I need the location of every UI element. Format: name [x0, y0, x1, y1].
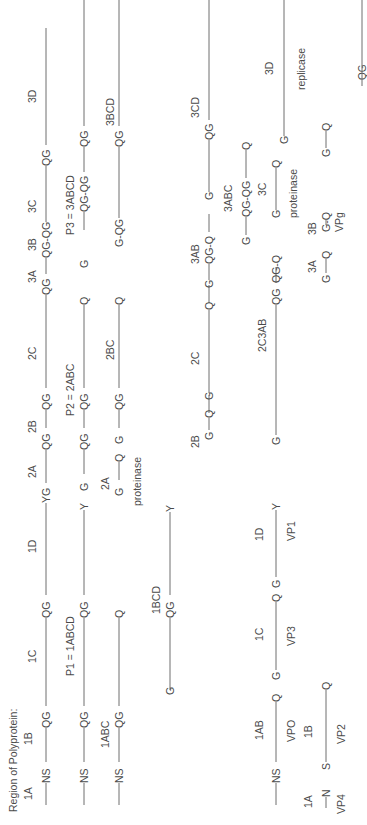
segment-label-2a: 2A: [26, 465, 38, 478]
label-vpg: VPg: [333, 212, 345, 232]
site-label: QG-QG: [240, 181, 252, 217]
segment-label-2b: 2B: [26, 420, 38, 433]
site-label: QG: [113, 712, 125, 728]
site-label: Q: [320, 123, 332, 131]
segment-label-1d: 1D: [26, 539, 38, 553]
site-label: G: [270, 672, 282, 680]
site-label: Q: [113, 610, 125, 618]
site-label: Q: [270, 160, 282, 168]
label-vp1: VP1: [285, 521, 297, 541]
site-label: QG: [40, 712, 52, 728]
site-label: G: [78, 483, 90, 491]
label-3cd: 3CD: [189, 97, 201, 118]
label-proteinase-3c: proteinase: [287, 169, 299, 218]
site-label: G: [270, 437, 282, 445]
site-label: NS: [78, 768, 90, 783]
site-label: G: [203, 392, 215, 400]
row-secondary: G Q G Q G QG-Q G QG 2B 2C 3AB 3CD: [189, 0, 215, 448]
label-proteinase-2a: proteinase: [131, 457, 143, 506]
label-1abc: 1ABC: [99, 720, 111, 748]
site-label: Q: [113, 297, 125, 305]
site-label: Q: [270, 594, 282, 602]
site-label: Q: [320, 682, 332, 690]
site-label: Q: [113, 454, 125, 462]
site-label: G: [270, 580, 282, 588]
site-label: NS: [270, 768, 282, 783]
site-label: G: [320, 275, 332, 283]
site-label: G: [203, 192, 215, 200]
site-label: Q: [78, 297, 90, 305]
site-label: QG: [203, 124, 215, 140]
site-label: QG-Q: [203, 236, 215, 264]
site-label: QG: [40, 150, 52, 166]
row-intermediates: NS QG Q G Q G QG Q G-QG QG 1ABC 2A prote…: [99, 0, 143, 805]
site-label: QG: [78, 602, 90, 618]
label-2bc: 2BC: [104, 339, 116, 360]
label-3abc: 3ABC: [222, 184, 234, 212]
site-label: QG: [270, 289, 282, 305]
segment-label-3b: 3B: [26, 238, 38, 251]
site-label: QG: [40, 602, 52, 618]
label-1d: 1D: [253, 527, 265, 541]
site-label: S: [320, 763, 332, 770]
row-primary-cleavage: NS QG QG Y G QG QG Q G QG-QG QG P1 = 1AB…: [64, 0, 90, 805]
site-label: G: [240, 237, 252, 245]
site-label: QG: [78, 394, 90, 410]
site-label: G: [113, 488, 125, 496]
label-3d: 3D: [263, 61, 275, 75]
label-1ab: 1AB: [253, 720, 265, 740]
site-label: QG: [40, 279, 52, 295]
site-label: QG: [40, 434, 52, 450]
label-3bcd: 3BCD: [104, 98, 116, 126]
site-label: Y: [78, 503, 90, 510]
site-label: G: [203, 432, 215, 440]
site-label: G: [164, 687, 176, 695]
segment-label-1a: 1A: [22, 787, 34, 800]
diagram-title: Region of Polyprotein:: [7, 709, 19, 812]
site-label: QG: [113, 394, 125, 410]
segment-label-3a: 3A: [26, 270, 38, 283]
site-label: G: [278, 136, 290, 144]
row-1bcd: G QG Y 1BCD: [150, 505, 176, 695]
label-p3: P3 = 3ABCD: [64, 175, 76, 235]
label-vp3: VP3: [285, 626, 297, 646]
label-2a: 2A: [99, 477, 111, 490]
site-label: G: [203, 280, 215, 288]
site-label: NS: [113, 768, 125, 783]
segment-label-2c: 2C: [26, 346, 38, 360]
label-2c3ab: 2C3AB: [256, 319, 268, 352]
site-label: NS: [40, 768, 52, 783]
polyprotein-cleavage-diagram: Region of Polyprotein: NS QG QG YG QG QG…: [0, 0, 367, 825]
row-polyprotein: NS QG QG YG QG QG QG QG-QG QG 1A 1B 1C 1…: [22, 28, 52, 805]
site-label: QG: [113, 131, 125, 147]
site-label: G-Q: [320, 212, 332, 232]
site-label: Q: [203, 302, 215, 310]
row-tertiary: NS Q G Q G Y G QG QG-Q G QG-QG Q G Q G 1…: [222, 0, 307, 805]
site-label: G-QG: [113, 219, 125, 247]
site-label: Y: [270, 503, 282, 510]
site-label: QG: [164, 602, 176, 618]
segment-label-1c: 1C: [26, 649, 38, 663]
site-label: QG-Q: [270, 255, 282, 283]
site-label: QG: [78, 434, 90, 450]
label-2c: 2C: [189, 351, 201, 365]
site-label: Q: [203, 410, 215, 418]
site-label: YG: [40, 488, 52, 503]
label-3c: 3C: [256, 182, 268, 196]
site-label: QG-QG: [40, 222, 52, 258]
label-replicase: replicase: [295, 48, 307, 90]
site-label: QG-QG: [78, 176, 90, 212]
label-2b: 2B: [189, 435, 201, 448]
row-final-products: N S Q G Q G-Q G Q QG 1A VP4 1B VP2 3A 3B…: [302, 0, 367, 814]
label-3a: 3A: [306, 260, 318, 273]
segment-label-3c: 3C: [26, 199, 38, 213]
site-label: G: [320, 149, 332, 157]
label-vp4: VP4: [335, 794, 347, 814]
label-p1: P1 = 1ABCD: [64, 616, 76, 676]
site-label: G: [78, 260, 90, 268]
segment-label-3d: 3D: [26, 89, 38, 103]
label-3ab: 3AB: [189, 244, 201, 264]
site-label: Y: [164, 505, 176, 512]
label-1b: 1B: [302, 725, 314, 738]
label-1c: 1C: [253, 627, 265, 641]
